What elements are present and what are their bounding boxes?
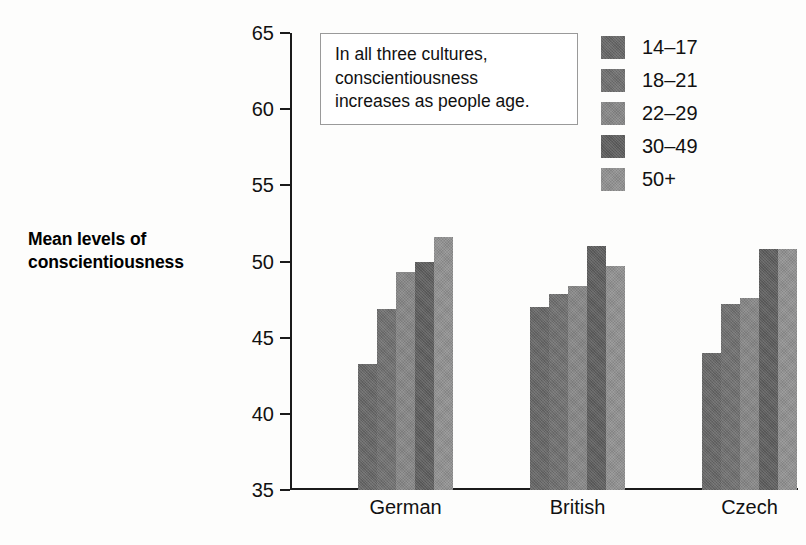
- y-axis-tick: [280, 32, 290, 34]
- legend-item: 50+: [601, 163, 781, 196]
- annotation-callout: In all three cultures, conscientiousness…: [320, 33, 578, 125]
- y-axis-tick: [280, 184, 290, 186]
- x-axis-category-label: Czech: [721, 496, 778, 519]
- bar: [778, 249, 797, 490]
- y-axis-tick-label: 45: [234, 326, 274, 349]
- y-axis-title: Mean levels of conscientiousness: [28, 228, 228, 274]
- bar: [606, 266, 625, 490]
- bar: [530, 307, 549, 490]
- y-axis-title-line-1: Mean levels of: [28, 228, 228, 251]
- y-axis-tick-label: 35: [234, 479, 274, 502]
- bar: [396, 272, 415, 490]
- y-axis-tick-label: 55: [234, 174, 274, 197]
- chart-canvas: Mean levels of conscientiousness 3540455…: [0, 0, 806, 545]
- bar: [568, 286, 587, 490]
- y-axis-title-line-2: conscientiousness: [28, 251, 228, 274]
- legend-item: 18–21: [601, 64, 781, 97]
- y-axis-tick-label: 65: [234, 22, 274, 45]
- y-axis-tick: [280, 413, 290, 415]
- y-axis-tick: [280, 337, 290, 339]
- legend-swatch-icon: [601, 36, 625, 59]
- x-axis-category-label: German: [369, 496, 441, 519]
- bar: [740, 298, 759, 490]
- bar: [549, 294, 568, 491]
- legend-item-label: 22–29: [642, 102, 698, 125]
- y-axis-tick: [280, 489, 290, 491]
- bar: [377, 309, 396, 490]
- bar: [759, 249, 778, 490]
- legend-swatch-icon: [601, 168, 625, 191]
- bar: [415, 262, 434, 491]
- legend-swatch-icon: [601, 102, 625, 125]
- bar: [702, 353, 721, 490]
- x-axis-category-label: British: [550, 496, 606, 519]
- y-axis-tick: [280, 261, 290, 263]
- y-axis-tick: [280, 108, 290, 110]
- annotation-line-1: In all three cultures,: [335, 43, 577, 67]
- bar: [434, 237, 453, 490]
- legend-swatch-icon: [601, 135, 625, 158]
- annotation-line-2: conscientiousness: [335, 67, 577, 91]
- legend-item: 14–17: [601, 31, 781, 64]
- y-axis-tick-label: 50: [234, 250, 274, 273]
- bar: [721, 304, 740, 490]
- y-axis-tick-label: 40: [234, 402, 274, 425]
- y-axis-tick-label: 60: [234, 98, 274, 121]
- bar: [358, 364, 377, 490]
- legend-item-label: 30–49: [642, 135, 698, 158]
- legend-item: 22–29: [601, 97, 781, 130]
- legend-swatch-icon: [601, 69, 625, 92]
- legend-item-label: 14–17: [642, 36, 698, 59]
- legend-item: 30–49: [601, 130, 781, 163]
- annotation-line-3: increases as people age.: [335, 90, 577, 114]
- legend: 14–1718–2122–2930–4950+: [601, 31, 781, 196]
- legend-item-label: 50+: [642, 168, 676, 191]
- bar: [587, 246, 606, 490]
- legend-item-label: 18–21: [642, 69, 698, 92]
